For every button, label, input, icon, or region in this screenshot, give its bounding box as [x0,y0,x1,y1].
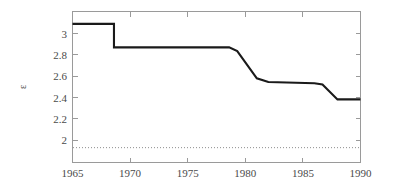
y-tick-label-2.8: 2.8 [53,49,67,61]
y-tick-label-2: 2 [62,134,68,146]
x-axis-ticks-top [130,12,303,17]
y-axis-ticks-right [356,33,361,140]
y-tick-label-2.2: 2.2 [53,113,67,125]
y-tick-label-3: 3 [62,28,68,40]
y-axis-ticks [73,33,78,140]
x-tick-label-1965: 1965 [62,167,85,179]
x-tick-label-1985: 1985 [292,167,315,179]
x-axis-ticks [73,158,361,163]
y-axis-title: ε [17,85,28,89]
line-chart: 2 2.2 2.4 2.6 2.8 3 1965 1970 1975 1980 … [0,0,395,194]
y-tick-label-2.4: 2.4 [53,92,67,104]
plot-frame [73,12,361,163]
series-epsilon [73,24,361,100]
x-tick-label-1990: 1990 [350,167,373,179]
chart-figure: 2 2.2 2.4 2.6 2.8 3 1965 1970 1975 1980 … [0,0,395,194]
x-tick-label-1975: 1975 [177,167,200,179]
x-tick-label-1980: 1980 [234,167,257,179]
y-tick-label-2.6: 2.6 [53,70,67,82]
x-tick-label-1970: 1970 [119,167,142,179]
